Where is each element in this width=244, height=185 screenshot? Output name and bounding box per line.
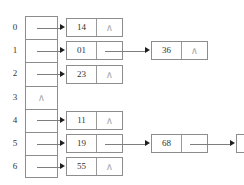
bucket-pointer-arrowhead-5 [60, 140, 65, 146]
bucket-index-label-6: 6 [8, 155, 22, 178]
chain-node-next-1-1: ∧ [182, 42, 207, 59]
bucket-pointer-arrowhead-4 [60, 117, 65, 123]
bucket-pointer-arrowhead-2 [60, 71, 65, 77]
bucket-index-label-1: 1 [8, 39, 22, 62]
bucket-row-separator [25, 155, 58, 156]
chain-node-4-0: 11∧ [66, 111, 123, 130]
chain-node-key-1-1: 36 [152, 42, 182, 59]
chain-node-key-2-0: 23 [67, 66, 97, 83]
chain-node-key-5-1: 68 [152, 135, 182, 152]
bucket-pointer-line-0 [37, 28, 61, 29]
bucket-row-separator [25, 109, 58, 110]
chain-node-key-5-0: 19 [67, 135, 97, 152]
chain-node-key-1-0: 01 [67, 42, 97, 59]
bucket-pointer-arrowhead-6 [60, 163, 65, 169]
bucket-pointer-line-5 [37, 144, 61, 145]
chain-node-key-5-2: 82 [237, 135, 244, 152]
chain-node-key-4-0: 11 [67, 112, 97, 129]
chain-node-next-2-0: ∧ [97, 66, 122, 83]
chain-node-5-2: 82 [236, 134, 244, 153]
bucket-pointer-line-4 [37, 120, 61, 121]
chain-node-key-6-0: 55 [67, 158, 97, 175]
bucket-null-marker-3: ∧ [25, 86, 58, 109]
chain-node-0-0: 14∧ [66, 18, 123, 37]
chain-node-6-0: 55∧ [66, 157, 123, 176]
chain-node-next-4-0: ∧ [97, 112, 122, 129]
chain-node-next-6-0: ∧ [97, 158, 122, 175]
chain-node-1-1: 36∧ [151, 41, 208, 60]
bucket-pointer-line-1 [37, 51, 61, 52]
chain-link-line-5-0 [105, 144, 145, 145]
bucket-pointer-arrowhead-0 [60, 24, 65, 30]
bucket-pointer-arrowhead-1 [60, 47, 65, 53]
bucket-row-separator [25, 39, 58, 40]
hash-table-chaining-diagram: 014∧10136∧223∧3∧411∧5196882655∧ [0, 0, 244, 185]
bucket-pointer-line-6 [37, 167, 61, 168]
bucket-index-label-0: 0 [8, 16, 22, 39]
chain-node-next-0-0: ∧ [97, 19, 122, 36]
chain-link-arrowhead-5-0 [145, 140, 150, 146]
bucket-index-label-3: 3 [8, 86, 22, 109]
chain-link-line-1-0 [105, 51, 145, 52]
bucket-pointer-line-2 [37, 74, 61, 75]
chain-link-arrowhead-1-0 [145, 47, 150, 53]
bucket-index-label-2: 2 [8, 62, 22, 85]
bucket-index-label-5: 5 [8, 132, 22, 155]
chain-link-line-5-1 [190, 144, 230, 145]
bucket-index-label-4: 4 [8, 109, 22, 132]
chain-node-2-0: 23∧ [66, 65, 123, 84]
bucket-row-separator [25, 62, 58, 63]
chain-node-key-0-0: 14 [67, 19, 97, 36]
bucket-row-separator [25, 132, 58, 133]
chain-link-arrowhead-5-1 [230, 140, 235, 146]
